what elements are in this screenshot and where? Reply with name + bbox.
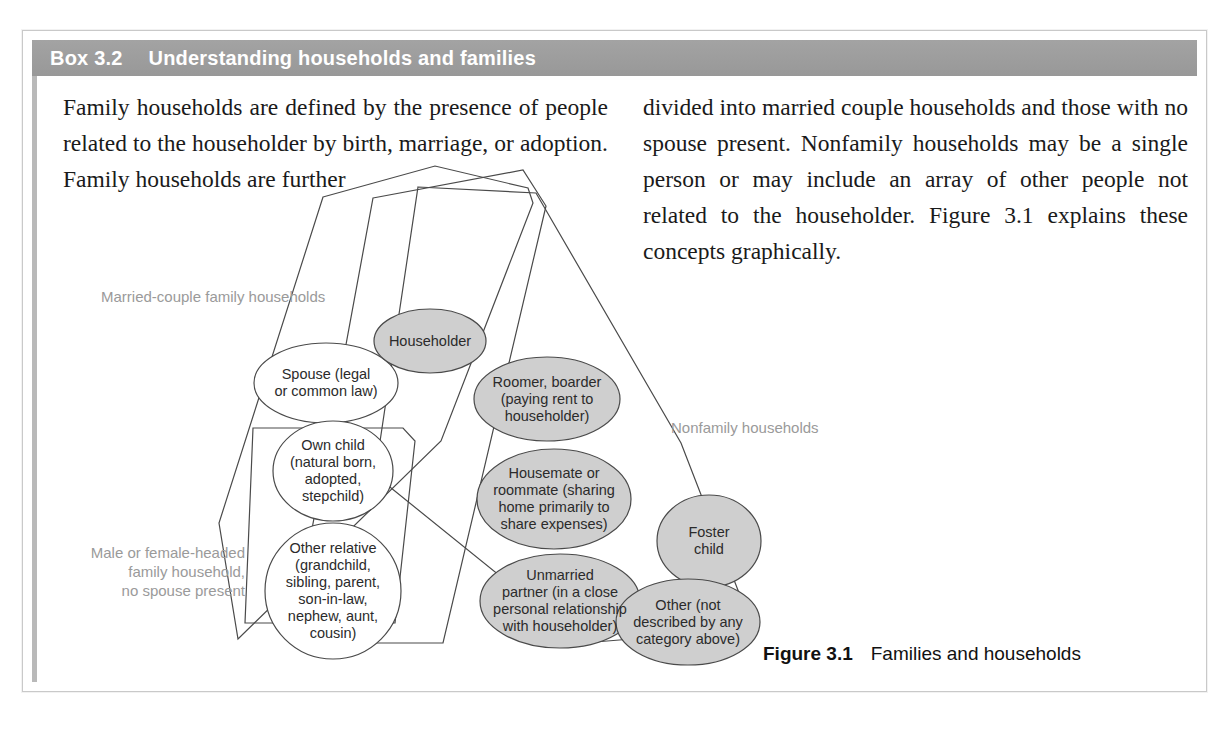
- node-label-housemate: Housemate or roommate (sharing home prim…: [493, 465, 615, 533]
- node-label-unmarried-partner: Unmarried partner (in a close personal r…: [493, 567, 627, 635]
- box-title: Understanding households and families: [149, 47, 536, 69]
- node-foster-child-ellipse: [657, 495, 761, 587]
- node-unmarried-partner-ellipse: [480, 554, 640, 648]
- body-column-right: divided into married couple households a…: [643, 89, 1188, 269]
- polygon-householder-band: [291, 170, 546, 643]
- node-housemate-ellipse: [477, 449, 631, 549]
- node-label-own-child: Own child (natural born, adopted, stepch…: [290, 437, 376, 505]
- node-householder-ellipse: [374, 309, 486, 373]
- node-own-child-ellipse: [273, 421, 393, 521]
- box-header-text: Box 3.2Understanding households and fami…: [50, 47, 536, 70]
- node-label-other: Other (not described by any category abo…: [633, 597, 743, 648]
- group-label-nonfamily: Nonfamily households: [671, 418, 901, 437]
- box-header-bar: Box 3.2Understanding households and fami…: [32, 40, 1197, 76]
- node-label-other-relative: Other relative (grandchild, sibling, par…: [286, 540, 380, 642]
- node-label-roomer-boarder: Roomer, boarder (paying rent to househol…: [493, 374, 602, 425]
- node-other-ellipse: [616, 579, 760, 665]
- group-label-male-female-headed: Male or female-headed family household, …: [33, 543, 245, 600]
- body-column-left: Family households are defined by the pre…: [63, 89, 608, 197]
- group-label-married-couple: Married-couple family households: [101, 287, 351, 306]
- polygon-male-female-headed-household: [245, 428, 415, 623]
- body-paragraph-right: divided into married couple households a…: [643, 89, 1188, 269]
- node-label-foster-child: Foster child: [688, 524, 729, 558]
- figure-caption-number: Figure 3.1: [763, 643, 853, 664]
- node-other-relative-ellipse: [265, 523, 401, 659]
- node-label-householder: Householder: [389, 333, 471, 350]
- box-left-spine: [32, 76, 37, 682]
- figure-caption: Figure 3.1Families and households: [763, 643, 1081, 665]
- figure-caption-text: Families and households: [871, 643, 1081, 664]
- node-roomer-boarder-ellipse: [474, 357, 620, 441]
- node-spouse-ellipse: [254, 343, 398, 423]
- node-label-spouse: Spouse (legal or common law): [274, 366, 377, 400]
- body-paragraph-left: Family households are defined by the pre…: [63, 89, 608, 197]
- box-number: Box 3.2: [50, 47, 123, 69]
- box-container: Box 3.2Understanding households and fami…: [22, 30, 1207, 692]
- polygon-married-couple-households: [219, 166, 533, 639]
